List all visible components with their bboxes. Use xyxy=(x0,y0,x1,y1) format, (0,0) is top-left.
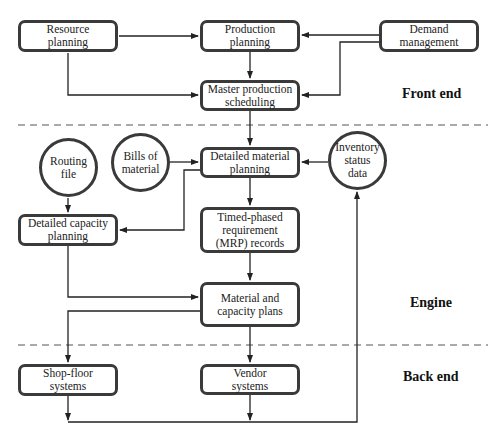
node-label: Routing file xyxy=(50,155,87,181)
node-demand-management: Demand management xyxy=(379,20,479,52)
node-label: Detailed capacity planning xyxy=(28,217,108,243)
node-label: Resource planning xyxy=(47,23,90,49)
node-label: Timed-phased requirement (MRP) records xyxy=(216,211,285,250)
edge-demand-mps xyxy=(302,42,379,95)
node-production-planning: Production planning xyxy=(200,20,300,52)
node-resource-planning: Resource planning xyxy=(18,20,118,52)
edge-plans-shopfloor xyxy=(68,311,200,362)
node-routing-file: Routing file xyxy=(39,138,98,197)
node-label: Inventory status data xyxy=(335,141,380,180)
section-label-back-end: Back end xyxy=(403,369,459,385)
section-label-engine: Engine xyxy=(410,295,452,311)
node-label: Material and capacity plans xyxy=(217,292,282,318)
node-master-production-scheduling: Master production scheduling xyxy=(200,80,300,111)
node-bills-of-material: Bills of material xyxy=(111,133,170,192)
node-shop-floor-systems: Shop-floor systems xyxy=(18,364,118,396)
node-label: Vendor systems xyxy=(232,367,268,393)
node-label: Bills of material xyxy=(122,150,160,176)
node-inventory-status-data: Inventory status data xyxy=(328,131,387,190)
node-label: Shop-floor systems xyxy=(43,367,93,393)
node-material-capacity-plans: Material and capacity plans xyxy=(200,282,300,327)
node-label: Production planning xyxy=(225,23,275,49)
edge-dcp-plans xyxy=(68,246,198,297)
node-timed-phased-mrp-records: Timed-phased requirement (MRP) records xyxy=(200,207,300,253)
node-vendor-systems: Vendor systems xyxy=(200,364,300,395)
node-label: Detailed material planning xyxy=(210,150,290,176)
node-detailed-material-planning: Detailed material planning xyxy=(200,147,300,178)
edge-resource-mps xyxy=(68,53,198,95)
node-detailed-capacity-planning: Detailed capacity planning xyxy=(18,214,118,246)
node-label: Demand management xyxy=(400,23,459,49)
section-label-front-end: Front end xyxy=(402,86,461,102)
node-label: Master production scheduling xyxy=(208,83,293,109)
